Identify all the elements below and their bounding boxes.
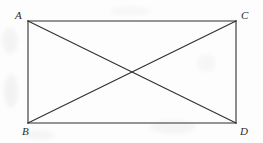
figure-canvas <box>0 0 263 143</box>
shape-group <box>28 21 236 123</box>
vertex-label-a: A <box>15 10 22 21</box>
vertex-label-d: D <box>240 126 248 137</box>
vertex-label-c: C <box>241 10 248 21</box>
geometry-figure: A C B D <box>0 0 263 143</box>
vertex-label-b: B <box>22 126 29 137</box>
